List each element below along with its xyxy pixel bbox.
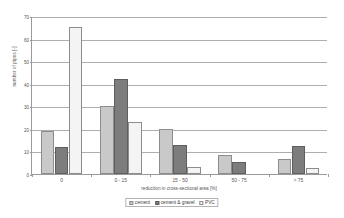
x-tick-mark <box>269 174 270 177</box>
bar-group <box>100 17 142 174</box>
x-tick-label: 0 <box>60 178 63 183</box>
legend-swatch-icon <box>155 201 159 205</box>
y-tick-label: 50 <box>24 60 29 65</box>
bar <box>128 122 142 174</box>
bar <box>232 162 246 174</box>
bar-chart-figure: number of pipes [-] 010203040506070 00 -… <box>0 0 344 218</box>
y-tick-label: 40 <box>24 82 29 87</box>
bar <box>278 159 292 174</box>
x-tick-mark <box>328 174 329 177</box>
bar-group <box>159 17 201 174</box>
x-tick-mark <box>32 174 33 177</box>
y-tick-label: 10 <box>24 150 29 155</box>
x-tick-mark <box>210 174 211 177</box>
bar-group <box>278 17 320 174</box>
legend-swatch-icon <box>129 201 133 205</box>
x-tick-label: 0 - 15 <box>115 178 128 183</box>
x-tick-mark <box>91 174 92 177</box>
y-tick-label: 70 <box>24 15 29 20</box>
bar <box>55 147 69 174</box>
y-tick-label: 30 <box>24 105 29 110</box>
bar <box>292 146 306 174</box>
bar <box>187 167 201 174</box>
legend-swatch-icon <box>200 201 204 205</box>
bar <box>41 131 55 174</box>
x-tick-mark <box>150 174 151 177</box>
legend-label: cement & gravel <box>161 200 195 205</box>
legend-entry: cement & gravel <box>155 200 194 205</box>
x-tick-label: 50 - 75 <box>232 178 247 183</box>
y-tick-label: 0 <box>26 173 29 178</box>
plot-area: 010203040506070 00 - 1515 - 5050 - 75> 7… <box>31 17 327 175</box>
y-axis-title: number of pipes [-] <box>12 22 17 112</box>
x-axis-title: reduction in cross-sectional area [%] <box>31 186 327 191</box>
y-tick-label: 20 <box>24 127 29 132</box>
legend-label: PVC <box>205 200 215 205</box>
bars-layer <box>32 17 327 174</box>
chart-legend: cementcement & gravelPVC <box>125 198 218 207</box>
x-tick-label: > 75 <box>294 178 304 183</box>
bar-group <box>218 17 260 174</box>
legend-entry: PVC <box>200 200 215 205</box>
bar <box>306 168 320 174</box>
bar <box>114 79 128 174</box>
legend-label: cement <box>135 200 150 205</box>
bar <box>100 106 114 174</box>
bar <box>69 27 83 174</box>
x-tick-label: 15 - 50 <box>172 178 187 183</box>
y-tick-label: 60 <box>24 37 29 42</box>
bar <box>218 155 232 174</box>
bar-group <box>41 17 83 174</box>
legend-entry: cement <box>129 200 150 205</box>
bar <box>173 145 187 174</box>
bar <box>159 129 173 174</box>
